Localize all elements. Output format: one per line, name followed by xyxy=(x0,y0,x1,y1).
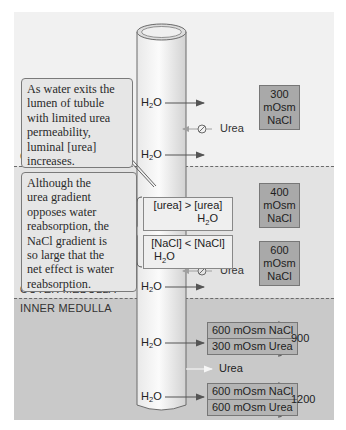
inner-stack-1200: 600 mOsm NaCl 600 mOsm Urea xyxy=(207,383,298,416)
stack-row-nacl: 600 mOsm NaCl xyxy=(208,323,297,338)
water-label: H2O xyxy=(141,336,162,350)
nacl-gradient-box: [NaCl] < [NaCl] H2O xyxy=(143,235,233,269)
stack-row-urea: 600 mOsm Urea xyxy=(208,399,297,415)
nacl-gradient-text: [NaCl] < [NaCl] xyxy=(148,237,228,250)
stack-row-urea: 300 mOsm Urea xyxy=(208,338,297,354)
total-1200: 1200 xyxy=(291,393,315,405)
callout-net-effect: Although the urea gradient opposes water… xyxy=(21,172,137,292)
stack-row-nacl: 600 mOsm NaCl xyxy=(208,384,297,399)
urea-gradient-water: H2O xyxy=(148,212,228,229)
water-label: H2O xyxy=(141,280,162,294)
urea-gradient-text: [urea] > [urea] xyxy=(148,199,228,212)
water-label: H2O xyxy=(141,390,162,404)
urea-gradient-box: [urea] > [urea] H2O xyxy=(143,197,233,231)
osm-box-600: 600 mOsm NaCl xyxy=(259,241,300,286)
water-label: H2O xyxy=(141,148,162,162)
total-900: 900 xyxy=(291,332,309,344)
inner-stack-900: 600 mOsm NaCl 300 mOsm Urea xyxy=(207,322,298,355)
urea-blocked-label: Urea xyxy=(220,122,244,134)
water-label: H2O xyxy=(141,96,162,110)
osm-box-300: 300 mOsm NaCl xyxy=(259,85,300,130)
callout-water-exits: As water exits the lumen of tubule with … xyxy=(21,78,133,168)
urea-recycle-label: Urea xyxy=(219,362,243,374)
osm-box-400: 400 mOsm NaCl xyxy=(259,183,300,228)
nacl-gradient-water: H2O xyxy=(148,250,228,267)
